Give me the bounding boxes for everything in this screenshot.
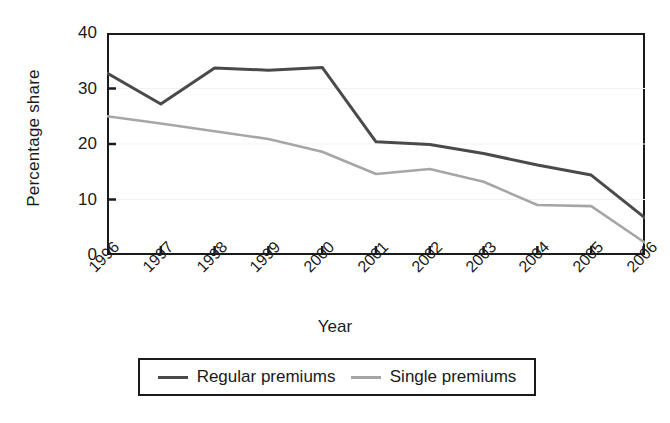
series-line-regular-premiums [107,67,645,217]
y-tick-label-30: 30 [55,80,97,97]
y-axis-title: Percentage share [24,38,44,238]
legend-entry-single-premiums: Single premiums [351,367,517,387]
y-tick-label-10: 10 [55,191,97,208]
y-tick-label-20: 20 [55,135,97,152]
line-swatch-single-icon [351,376,381,379]
plot-area [107,33,645,255]
x-axis-title: Year [0,317,670,337]
line-swatch-regular-icon [158,376,188,379]
legend-label-single-premiums: Single premiums [390,367,517,387]
series-line-single-premiums [107,116,645,243]
chart-figure: Percentage share 40 30 20 10 0 199619971… [0,0,670,423]
legend-entry-regular-premiums: Regular premiums [158,367,336,387]
chart-legend: Regular premiums Single premiums [138,358,536,396]
legend-label-regular-premiums: Regular premiums [197,367,336,387]
y-axis-ticks [107,89,116,200]
y-tick-label-40: 40 [55,24,97,41]
